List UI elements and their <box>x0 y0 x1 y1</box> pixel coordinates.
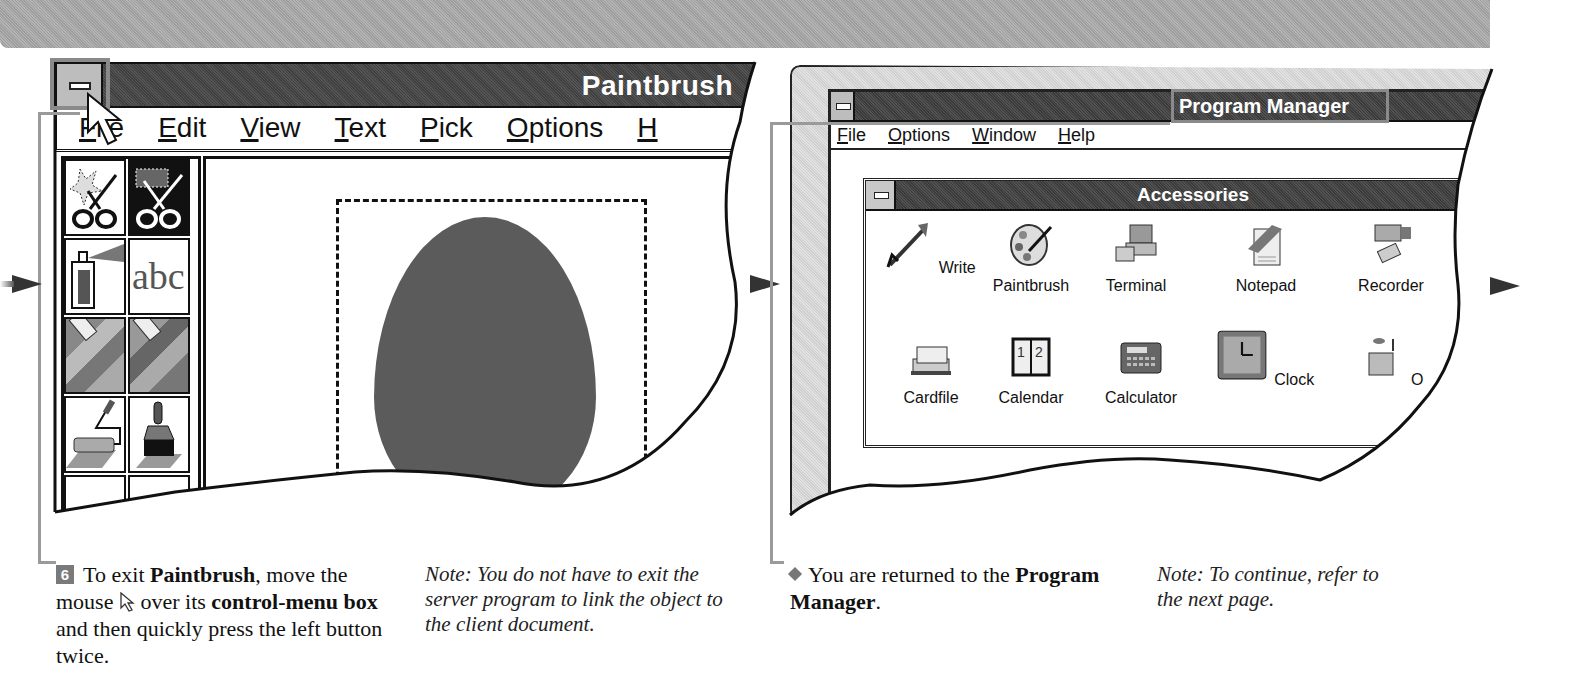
callout-line-left <box>38 112 41 562</box>
scissors-icon <box>66 161 124 234</box>
paintbrush-tool-icon <box>130 398 188 471</box>
program-item-calculator[interactable]: Calculator <box>1086 333 1196 407</box>
mouse-pointer-icon <box>119 592 135 612</box>
control-menu-icon <box>836 103 851 110</box>
menu-options[interactable]: Options <box>507 108 604 149</box>
toolbox: abc <box>61 156 201 522</box>
program-item-recorder[interactable]: Recorder <box>1336 221 1446 295</box>
program-manager-menubar: File Options Window Help <box>831 122 1495 150</box>
svg-text:2: 2 <box>1035 344 1043 360</box>
paintbrush-window: Paintbrush File Edit View Text Pick Opti… <box>55 62 755 522</box>
write-icon <box>884 221 932 269</box>
menu-window[interactable]: Window <box>972 122 1036 148</box>
callout-line-left-bottom <box>38 561 56 564</box>
menu-view[interactable]: View <box>240 108 300 149</box>
text-tool[interactable]: abc <box>128 238 190 315</box>
flow-arrow-tail <box>0 281 14 287</box>
clock-icon <box>1216 329 1268 381</box>
drawing-canvas[interactable] <box>203 156 755 522</box>
paintbrush-icon <box>1007 221 1055 269</box>
brush-tool[interactable] <box>128 396 190 473</box>
pick-scissors-icon <box>130 161 188 234</box>
paint-roller-tool[interactable] <box>64 396 126 473</box>
accessories-group-window: Accessories Write Paintbrush Terminal No… <box>863 178 1483 448</box>
paintbrush-titlebar[interactable]: Paintbrush <box>55 62 755 108</box>
paintbrush-menubar: File Edit View Text Pick Options H <box>55 108 755 152</box>
step-number-badge: 6 <box>56 565 74 584</box>
scissors-tool[interactable] <box>64 159 126 236</box>
accessories-titlebar[interactable]: Accessories <box>866 181 1480 211</box>
paint-roller-icon <box>66 398 124 471</box>
eraser-icon <box>130 319 188 392</box>
pm-control-menu-box[interactable] <box>831 92 855 120</box>
pick-tool[interactable] <box>128 159 190 236</box>
program-item-cardfile[interactable]: Cardfile <box>876 333 986 407</box>
recorder-icon <box>1367 221 1415 269</box>
step-instruction: 6 To exit Paintbrush, move the mouse ove… <box>56 561 386 669</box>
program-manager-screen: Program Manager File Options Window Help… <box>790 65 1495 520</box>
page-header-banner <box>0 0 1490 48</box>
menu-options[interactable]: Options <box>888 122 950 148</box>
result-text: You are returned to the Program Manager. <box>790 561 1110 615</box>
color-eraser-icon <box>66 319 124 392</box>
object-packager-icon <box>1357 333 1405 381</box>
tool-slot-9[interactable] <box>64 475 126 522</box>
menu-help[interactable]: Help <box>1058 122 1095 148</box>
mouse-pointer-icon <box>86 92 126 148</box>
program-manager-titlebar[interactable]: Program Manager <box>831 92 1495 122</box>
diamond-bullet-icon <box>788 567 802 581</box>
flow-arrow-right <box>1490 277 1520 295</box>
note-right: Note: To continue, refer to the next pag… <box>1157 562 1387 612</box>
program-manager-window: Program Manager File Options Window Help… <box>828 89 1495 520</box>
text-tool-label: abc <box>132 254 185 298</box>
group-title: Accessories <box>866 184 1480 206</box>
calendar-icon: 12 <box>1007 333 1055 381</box>
callout-line-right-top <box>770 122 1170 125</box>
callout-line-left-top <box>38 112 80 115</box>
program-item-object-packager[interactable]: O <box>1336 333 1446 389</box>
note-left: Note: You do not have to exit the server… <box>425 562 735 637</box>
callout-line-right <box>770 122 773 562</box>
eraser-tool[interactable] <box>128 317 190 394</box>
title-highlight <box>1171 89 1389 123</box>
calculator-icon <box>1117 333 1165 381</box>
flow-arrow-left <box>12 275 42 293</box>
program-item-calendar[interactable]: 12 Calendar <box>976 333 1086 407</box>
airbrush-tool[interactable] <box>64 238 126 315</box>
notepad-icon <box>1242 221 1290 269</box>
spray-can-icon <box>66 240 124 313</box>
menu-pick[interactable]: Pick <box>420 108 473 149</box>
color-eraser-tool[interactable] <box>64 317 126 394</box>
menu-edit[interactable]: Edit <box>158 108 206 149</box>
menu-help[interactable]: H <box>637 108 657 149</box>
tool-slot-10[interactable] <box>128 475 190 522</box>
callout-line-right-bottom <box>770 561 784 564</box>
cardfile-icon <box>907 333 955 381</box>
menu-file[interactable]: File <box>837 122 866 148</box>
program-item-notepad[interactable]: Notepad <box>1211 221 1321 295</box>
program-item-clock[interactable]: Clock <box>1211 329 1321 389</box>
terminal-icon <box>1112 221 1160 269</box>
menu-text[interactable]: Text <box>335 108 386 149</box>
program-item-terminal[interactable]: Terminal <box>1081 221 1191 295</box>
program-item-paintbrush[interactable]: Paintbrush <box>976 221 1086 295</box>
program-item-write[interactable]: Write <box>876 221 986 277</box>
window-title: Paintbrush <box>582 70 733 102</box>
flow-arrow-middle <box>750 275 780 293</box>
svg-text:1: 1 <box>1017 344 1025 360</box>
